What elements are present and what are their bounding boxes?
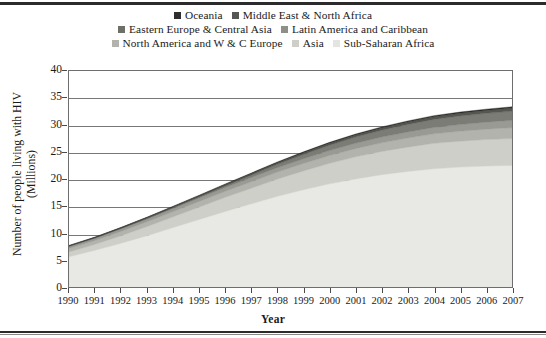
bottom-rule-secondary <box>0 334 546 335</box>
y-axis-title: Number of people living with HIV (Millio… <box>10 59 38 289</box>
x-axis-tick-mark <box>435 288 436 293</box>
x-axis-tick-marks <box>68 288 513 294</box>
x-axis-tick-mark <box>120 288 121 293</box>
plot-wrapper: 4035302520151050 19901991199219931994199… <box>0 0 546 338</box>
x-axis-tick-mark <box>147 288 148 293</box>
x-axis-tick-label: 2007 <box>493 295 533 307</box>
x-axis-tick-mark <box>94 288 95 293</box>
chart-figure: Oceania Middle East & North Africa Easte… <box>0 0 546 338</box>
x-axis-tick-mark <box>513 288 514 293</box>
x-axis-title: Year <box>0 313 546 325</box>
x-axis-tick-mark <box>225 288 226 293</box>
x-axis-tick-mark <box>408 288 409 293</box>
y-axis-tick-mark <box>62 152 67 153</box>
x-axis-tick-mark <box>173 288 174 293</box>
x-axis-tick-mark <box>304 288 305 293</box>
y-axis-tick-mark <box>62 97 67 98</box>
y-axis-tick-mark <box>62 179 67 180</box>
y-axis-tick-mark <box>62 125 67 126</box>
x-axis-tick-mark <box>356 288 357 293</box>
plot-area <box>68 70 513 288</box>
y-axis-tick-mark <box>62 70 67 71</box>
stacked-area-series <box>69 71 512 287</box>
x-axis-tick-labels: 1990199119921993199419951996199719981999… <box>0 295 546 309</box>
y-axis-title-line2: (Millions) <box>24 59 38 289</box>
y-axis-tick-mark <box>62 261 67 262</box>
y-axis-tick-mark <box>62 206 67 207</box>
x-axis-tick-mark <box>251 288 252 293</box>
x-axis-tick-mark <box>277 288 278 293</box>
x-axis-tick-mark <box>382 288 383 293</box>
y-axis-title-line1: Number of people living with HIV <box>10 92 24 256</box>
x-axis-tick-mark <box>68 288 69 293</box>
y-axis-tick-mark <box>62 288 67 289</box>
y-axis-tick-mark <box>62 234 67 235</box>
x-axis-tick-mark <box>461 288 462 293</box>
x-axis-tick-mark <box>487 288 488 293</box>
bottom-rule <box>0 331 546 333</box>
x-axis-tick-mark <box>199 288 200 293</box>
x-axis-tick-mark <box>330 288 331 293</box>
